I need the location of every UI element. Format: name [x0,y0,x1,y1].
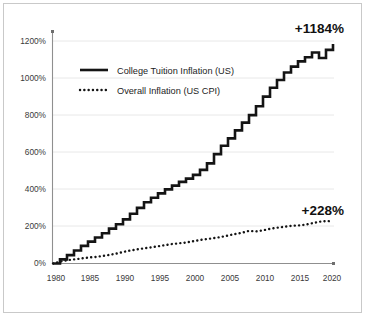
chart-screenshot: 1200% 1000% 800% 600% 400% 200% 0% 1980 … [0,0,366,317]
legend-label-cpi: Overall Inflation (US CPI) [117,86,220,96]
x-axis-tick-labels: 1980 1985 1990 1995 2000 2005 2010 2015 … [47,273,342,283]
legend-label-tuition: College Tuition Inflation (US) [117,66,234,76]
y-tick-label: 200% [25,221,47,231]
x-tick-label: 1980 [47,273,66,283]
y-tick-label: 1200% [20,36,46,46]
y-axis-endcap [51,30,54,33]
x-tick-label: 2020 [323,273,342,283]
y-tick-label: 800% [25,110,47,120]
chart-legend: College Tuition Inflation (US) Overall I… [80,66,234,96]
series-line-college-tuition [53,44,333,264]
x-tick-label: 1990 [116,273,135,283]
y-tick-label: 0% [34,258,47,268]
annotation-tuition-total: +1184% [295,21,344,36]
y-tick-label: 600% [25,147,47,157]
line-chart: 1200% 1000% 800% 600% 400% 200% 0% 1980 … [0,0,366,317]
x-tick-label: 2010 [256,273,275,283]
x-tick-label: 2005 [221,273,240,283]
x-tick-label: 1995 [151,273,170,283]
chart-svg: 1200% 1000% 800% 600% 400% 200% 0% 1980 … [0,0,366,317]
y-axis-tick-labels: 1200% 1000% 800% 600% 400% 200% 0% [20,36,46,268]
annotation-cpi-total: +228% [302,203,344,218]
x-tick-label: 1985 [81,273,100,283]
x-tick-label: 2000 [186,273,205,283]
y-tick-label: 1000% [20,73,46,83]
x-axis-endcap [332,262,335,265]
y-tick-label: 400% [25,184,47,194]
x-tick-label: 2015 [291,273,310,283]
